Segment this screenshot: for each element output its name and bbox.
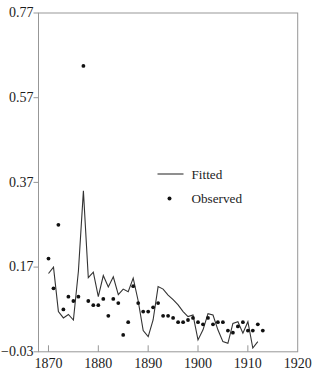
- plot-frame: [39, 13, 298, 352]
- fitted-observed-chart: −0.030.170.370.570.77 187018801890190019…: [0, 0, 315, 378]
- fitted-line-path: [49, 191, 258, 348]
- observed-point: [82, 64, 86, 68]
- observed-point: [206, 316, 210, 320]
- observed-point: [161, 314, 165, 318]
- observed-point: [72, 299, 76, 303]
- observed-point: [91, 303, 95, 307]
- y-tick-label: −0.03: [1, 344, 33, 359]
- observed-point: [111, 297, 115, 301]
- observed-point: [201, 322, 205, 326]
- observed-point: [57, 223, 61, 227]
- observed-point: [106, 314, 110, 318]
- observed-point: [231, 331, 235, 335]
- observed-point: [226, 329, 230, 333]
- observed-point: [196, 320, 200, 324]
- observed-point: [156, 301, 160, 305]
- observed-point: [67, 295, 71, 299]
- observed-point: [126, 320, 130, 324]
- observed-point: [171, 316, 175, 320]
- y-tick-label: 0.77: [9, 5, 34, 20]
- observed-point: [176, 320, 180, 324]
- observed-point: [141, 310, 145, 314]
- legend-fitted-label: Fitted: [192, 167, 223, 182]
- chart-figure: −0.030.170.370.570.77 187018801890190019…: [0, 0, 315, 378]
- observed-point: [241, 320, 245, 324]
- x-tick-label: 1890: [134, 356, 162, 371]
- observed-point: [62, 308, 66, 312]
- legend-observed-dot-sample: [168, 197, 172, 201]
- observed-point: [181, 320, 185, 324]
- observed-point: [256, 322, 260, 326]
- x-axis: 187018801890190019101920: [34, 345, 311, 370]
- observed-point: [236, 325, 240, 329]
- observed-point: [101, 297, 105, 301]
- observed-point: [186, 318, 190, 322]
- observed-point: [251, 329, 255, 333]
- observed-point: [246, 329, 250, 333]
- y-tick-label: 0.37: [9, 175, 34, 190]
- observed-point: [146, 310, 150, 314]
- x-tick-label: 1910: [234, 356, 262, 371]
- observed-point: [151, 305, 155, 309]
- legend: Fitted Observed: [158, 167, 243, 207]
- observed-point: [131, 284, 135, 288]
- x-tick-label: 1880: [84, 356, 112, 371]
- observed-point: [86, 299, 90, 303]
- observed-point: [221, 320, 225, 324]
- x-tick-label: 1870: [34, 356, 62, 371]
- observed-point: [211, 322, 215, 326]
- observed-point: [136, 301, 140, 305]
- observed-point: [77, 295, 81, 299]
- x-tick-label: 1900: [184, 356, 212, 371]
- legend-observed-label: Observed: [192, 191, 243, 206]
- observed-point: [261, 329, 265, 333]
- y-tick-label: 0.17: [9, 259, 34, 274]
- observed-point: [116, 301, 120, 305]
- fitted-line-series: [49, 191, 258, 348]
- y-axis: −0.030.170.370.570.77: [1, 5, 38, 359]
- observed-point: [216, 320, 220, 324]
- observed-point: [96, 303, 100, 307]
- observed-point: [166, 314, 170, 318]
- observed-point: [191, 316, 195, 320]
- x-tick-label: 1920: [284, 356, 312, 371]
- plot-frame-box: [39, 13, 298, 352]
- y-tick-label: 0.57: [9, 90, 34, 105]
- observed-point: [52, 286, 56, 290]
- observed-point: [121, 333, 125, 337]
- observed-point: [47, 257, 51, 261]
